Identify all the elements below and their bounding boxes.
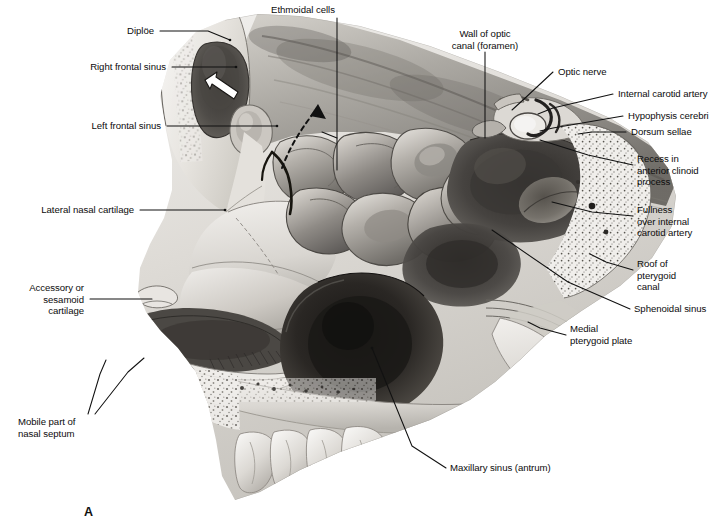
label-sphenoidal-sinus: Sphenoidal sinus [634, 303, 706, 315]
label-accessory-or-sesamoid-cartilage: Accessory or sesamoid cartilage [29, 282, 84, 317]
label-left-frontal-sinus: Left frontal sinus [92, 120, 162, 132]
label-maxillary-sinus-antrum: Maxillary sinus (antrum) [450, 462, 551, 474]
label-optic-nerve: Optic nerve [558, 66, 607, 78]
label-hypophysis-cerebri: Hypophysis cerebri [628, 110, 709, 122]
label-internal-carotid-artery: Internal carotid artery [618, 88, 708, 100]
label-medial-pterygoid-plate: Medial pterygoid plate [570, 323, 632, 346]
label-dorsum-sellae: Dorsum sellae [631, 126, 692, 138]
label-fullness-over-internal-carotid-artery: Fullness over internal carotid artery [637, 204, 692, 239]
sagittal-nasal-cavity-illustration [0, 0, 723, 531]
teeth [235, 427, 388, 493]
label-recess-in-anterior-clinoid-process: Recess in anterior clinoid process [637, 153, 699, 188]
panel-letter-a: A [84, 505, 93, 519]
anatomy-figure: Diplöe Right frontal sinus Left frontal … [0, 0, 723, 531]
label-wall-of-optic-canal: Wall of optic canal (foramen) [427, 28, 543, 51]
label-roof-of-pterygoid-canal: Roof of pterygoid canal [637, 258, 676, 293]
label-ethmoidal-cells: Ethmoidal cells [243, 4, 363, 16]
label-diploe: Diplöe [127, 25, 154, 37]
label-lateral-nasal-cartilage: Lateral nasal cartilage [41, 204, 134, 216]
label-right-frontal-sinus: Right frontal sinus [90, 61, 166, 73]
label-mobile-part-of-nasal-septum: Mobile part of nasal septum [18, 416, 75, 439]
